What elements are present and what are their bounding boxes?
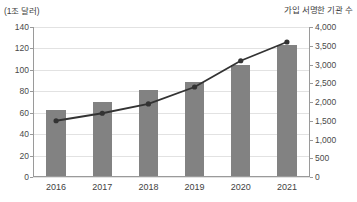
left-tick-label: 100 (15, 66, 29, 75)
right-tick-mark (310, 83, 313, 84)
left-tick-label: 120 (15, 44, 29, 53)
right-tick-label: 2,000 (315, 98, 336, 107)
right-tick-mark (310, 46, 313, 47)
category-label: 2016 (46, 182, 66, 192)
left-tick-label: 0 (24, 173, 29, 182)
right-tick-label: 2,500 (315, 79, 336, 88)
left-tick-label: 40 (20, 130, 29, 139)
gridline (33, 177, 310, 178)
right-tick-mark (310, 121, 313, 122)
left-tick-label: 60 (20, 108, 29, 117)
line-marker (146, 101, 151, 106)
right-tick-mark (310, 27, 313, 28)
left-axis-title: (1조 달러) (4, 4, 39, 16)
right-tick-label: 3,500 (315, 42, 336, 51)
right-tick-mark (310, 140, 313, 141)
right-axis-title: 가입 서명한 기관 수 (284, 3, 353, 15)
line-marker (238, 58, 243, 63)
left-tick-label: 20 (20, 151, 29, 160)
left-axis-line (33, 27, 34, 177)
right-tick-label: 3,000 (315, 60, 336, 69)
left-tick-label: 140 (15, 23, 29, 32)
category-label: 2019 (185, 182, 205, 192)
category-label: 2021 (277, 182, 297, 192)
line-marker (192, 84, 197, 89)
category-label: 2020 (231, 182, 251, 192)
left-tick-label: 80 (20, 87, 29, 96)
right-tick-mark (310, 177, 313, 178)
right-tick-label: 0 (315, 173, 320, 182)
left-tick-mark (30, 177, 33, 178)
line-series (33, 27, 310, 177)
line-marker (53, 118, 58, 123)
right-axis-line (309, 27, 310, 177)
line-marker (100, 111, 105, 116)
line-marker (284, 39, 289, 44)
combo-chart: (1조 달러) 가입 서명한 기관 수 020406080100120140 0… (0, 0, 357, 202)
right-tick-label: 1,500 (315, 117, 336, 126)
right-tick-label: 500 (315, 154, 329, 163)
right-tick-mark (310, 65, 313, 66)
right-tick-mark (310, 158, 313, 159)
right-tick-label: 4,000 (315, 23, 336, 32)
line-path (56, 42, 287, 121)
right-tick-label: 1,000 (315, 135, 336, 144)
category-axis-line (33, 176, 310, 177)
plot-area: 020406080100120140 05001,0001,5002,0002,… (33, 27, 310, 177)
category-label: 2017 (92, 182, 112, 192)
category-label: 2018 (138, 182, 158, 192)
right-tick-mark (310, 102, 313, 103)
